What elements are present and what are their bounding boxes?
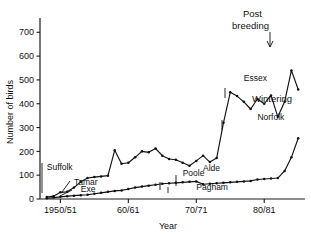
x-axis-tick-labels: 1950/5160/6170/7180/81: [44, 205, 275, 215]
data-point: [147, 184, 150, 187]
data-point: [243, 101, 246, 104]
series-label-wintering-text: Wintering: [252, 93, 292, 104]
data-point: [263, 178, 266, 181]
data-point: [188, 181, 191, 184]
data-point: [107, 174, 110, 177]
annotation-leader: [60, 190, 72, 196]
data-point: [229, 91, 232, 94]
data-point: [100, 192, 103, 195]
y-tick-label: 700: [19, 27, 34, 37]
data-point: [120, 163, 123, 166]
data-point: [154, 183, 157, 186]
data-point: [222, 122, 225, 125]
y-tick-label: 200: [19, 147, 34, 157]
data-point: [73, 194, 76, 197]
annotation-label: Alde: [203, 163, 220, 173]
data-point: [188, 164, 191, 167]
data-point: [46, 197, 49, 200]
data-point: [141, 150, 144, 153]
data-point: [256, 178, 259, 181]
data-point: [141, 185, 144, 188]
y-tick-label: 400: [19, 99, 34, 109]
y-tick-label: 600: [19, 51, 34, 61]
data-point: [202, 154, 205, 157]
data-point: [290, 69, 293, 72]
data-point: [134, 156, 137, 159]
data-point: [100, 175, 103, 178]
annotation-suffolk: Suffolk: [42, 162, 73, 193]
data-point: [283, 170, 286, 173]
data-point: [297, 88, 300, 91]
data-point: [134, 186, 137, 189]
data-point: [161, 183, 164, 186]
data-point: [168, 158, 171, 161]
annotation-norfolk: Norfolk: [222, 112, 285, 130]
line-chart: 0100200300400500600700 1950/5160/6170/71…: [0, 0, 311, 234]
y-axis-tick-labels: 0100200300400500600700: [19, 27, 34, 204]
data-point: [290, 156, 293, 159]
data-point: [297, 137, 300, 140]
data-point: [113, 149, 116, 152]
y-tick-label: 0: [29, 194, 34, 204]
data-point: [161, 154, 164, 157]
annotation-label: Suffolk: [47, 162, 74, 172]
data-point: [249, 108, 252, 111]
data-point: [107, 191, 110, 194]
annotation-pagham: Pagham: [168, 182, 228, 193]
annotation-label: Pagham: [196, 182, 228, 192]
y-tick-label: 100: [19, 170, 34, 180]
data-point: [236, 95, 239, 98]
series-label-post-breeding-line2: breeding: [232, 20, 269, 31]
data-point: [168, 182, 171, 185]
data-point: [181, 162, 184, 165]
x-tick-label: 70/71: [185, 205, 208, 215]
annotation-label: Norfolk: [257, 112, 285, 122]
data-point: [52, 196, 55, 199]
data-point: [236, 181, 239, 184]
data-point: [270, 177, 273, 180]
y-tick-label: 500: [19, 75, 34, 85]
x-tick-label: 80/81: [253, 205, 276, 215]
site-annotations: SuffolkTamarExePooleAldePaghamEssexNorfo…: [42, 73, 285, 196]
series-label-post-breeding-line1: Post: [243, 8, 262, 19]
data-point: [277, 177, 280, 180]
series-label-post-breeding: Post breeding: [232, 8, 273, 47]
data-point: [66, 195, 69, 198]
x-tick-label: 60/61: [117, 205, 140, 215]
series-label-wintering: Wintering: [252, 93, 292, 104]
x-axis-ticks: [60, 199, 264, 203]
annotation-label: Exe: [81, 184, 96, 194]
x-axis-title: Year: [159, 221, 177, 231]
data-point: [249, 180, 252, 183]
data-point: [127, 162, 130, 165]
data-point: [195, 160, 198, 163]
data-point: [154, 147, 157, 150]
data-point: [80, 194, 83, 197]
annotation-label: Essex: [244, 73, 268, 83]
chart-figure: 0100200300400500600700 1950/5160/6170/71…: [0, 0, 311, 234]
data-point: [113, 190, 116, 193]
data-point: [243, 180, 246, 183]
data-point: [127, 188, 130, 191]
data-point: [175, 158, 178, 161]
data-point: [120, 189, 123, 192]
y-tick-label: 300: [19, 123, 34, 133]
data-point: [147, 151, 150, 154]
data-point: [215, 157, 218, 160]
y-axis-title: Number of birds: [5, 79, 15, 144]
data-point: [181, 181, 184, 184]
annotation-label: Poole: [183, 168, 205, 178]
x-tick-label: 1950/51: [44, 205, 77, 215]
data-point: [229, 181, 232, 184]
data-point: [59, 191, 62, 194]
